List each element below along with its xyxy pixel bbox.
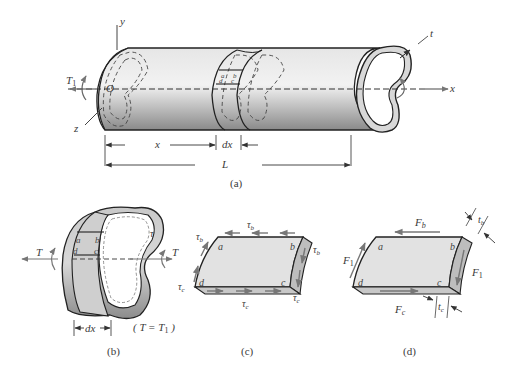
point-b-label: b [450,241,455,252]
z-axis-label: z [73,122,79,134]
force-fc-label: Fc [394,303,406,317]
caption-c: (c) [241,345,254,358]
tau-b-left-label: τb [196,231,204,244]
point-c-label: c [281,277,286,288]
panel-a: y a b d c x T1 O [66,15,455,190]
force-f1-left-label: F1 [342,254,354,268]
thickness-label: t [430,27,434,39]
point-b-label: b [95,235,100,245]
tau-c-bottom-label: τc [242,298,250,311]
point-d-label: d [73,246,78,256]
caption-a: (a) [230,177,243,190]
force-fb-label: Fb [414,216,426,230]
point-a-label: a [218,241,223,252]
tau-b-top-label: τb [247,219,255,232]
panel-b: a b d c T T τ dx ( T = T1 ) (b) [22,207,179,358]
point-a-label: a [378,241,383,252]
element-top-face [195,237,303,287]
panel-d: Fb Fc F1 F1 tb tc a b d c (d) [342,208,495,358]
torque-left-curl-icon [82,76,86,100]
element-top-face [353,237,462,287]
thickness-tc-label: tc [438,301,445,314]
dim-L-label: L [221,158,228,170]
tau-label: τ [150,228,154,239]
point-b-label: b [290,241,295,252]
tau-c-left-label: τc [178,281,186,294]
thickness-tb-label: tb [478,214,485,227]
dim-x-label: x [154,138,160,150]
torque-right-label: T [172,246,179,258]
caption-b: (b) [107,345,120,358]
dim-dx-label: dx [222,138,233,150]
point-a-label: a [76,235,81,245]
torsion-diagram: y a b d c x T1 O [0,0,506,374]
y-axis-label: y [119,15,125,27]
panel-c: τb τc τb τc τb τc a b d c (c) [178,219,321,358]
dim-dx-label: dx [85,322,96,334]
origin-label: O [106,82,114,94]
point-d-label: d [219,77,223,85]
point-c-label: c [94,246,98,256]
torque-t1-label: T1 [66,74,76,88]
force-f1-right-label: F1 [471,266,483,280]
caption-d: (d) [403,345,416,358]
tau-b-right-label: τb [313,244,321,257]
torque-equality-label: ( T = T1 ) [133,321,175,335]
torque-left-label: T [36,246,43,258]
x-axis-label: x [449,82,455,94]
point-c-label: c [437,277,442,288]
